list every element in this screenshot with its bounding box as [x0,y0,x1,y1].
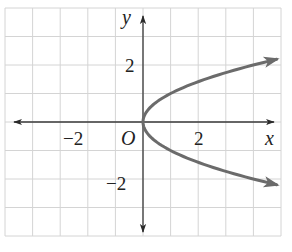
x-tick-label-pos2: 2 [194,128,204,149]
y-tick-label-pos2: 2 [125,55,135,76]
x-axis-label: x [264,127,274,149]
y-axis-label: y [120,6,131,29]
y-tick-label-neg2: −2 [106,173,126,194]
origin-label: O [121,127,135,149]
parabola-graph: y x O −2 2 2 −2 [0,0,292,252]
x-tick-label-neg2: −2 [63,128,83,149]
